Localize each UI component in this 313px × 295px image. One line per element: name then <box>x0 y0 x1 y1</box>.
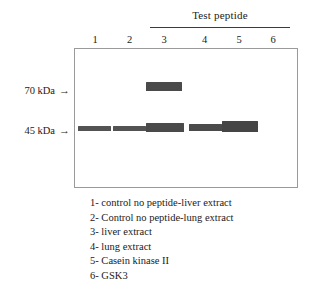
test-peptide-group-label: Test peptide <box>150 9 290 22</box>
marker-label-70kda: 70 kDa→ <box>0 84 70 97</box>
lane-number-3: 3 <box>155 33 173 46</box>
arrow-right-icon-70kda: → <box>59 84 70 96</box>
lane-number-5: 5 <box>230 33 248 46</box>
legend-item-6: 6- GSK3 <box>90 269 305 284</box>
legend-item-1: 1- control no peptide-liver extract <box>90 196 305 211</box>
band-lane4-45kda <box>189 124 222 131</box>
lane-number-row: 123456 <box>74 33 298 47</box>
legend-item-2: 2- Control no peptide-lung extract <box>90 211 305 226</box>
band-lane1-45kda <box>78 126 111 132</box>
legend-item-4: 4- lung extract <box>90 240 305 255</box>
legend-list: 1- control no peptide-liver extract2- Co… <box>90 196 305 284</box>
marker-45kda-text: 45 kDa <box>24 125 55 136</box>
lane-number-1: 1 <box>86 33 104 46</box>
band-lane5-45kda <box>222 121 258 132</box>
legend-item-3: 3- liver extract <box>90 225 305 240</box>
arrow-right-icon-45kda: → <box>59 124 70 136</box>
band-lane3-45kda <box>146 123 184 132</box>
band-lane2-45kda <box>113 126 146 131</box>
band-lane3-70kda <box>146 82 182 91</box>
lane-number-6: 6 <box>264 33 282 46</box>
lane-number-4: 4 <box>196 33 214 46</box>
test-peptide-group-underline <box>150 27 290 28</box>
gel-box <box>74 48 298 188</box>
legend-item-5: 5- Casein kinase II <box>90 254 305 269</box>
marker-label-45kda: 45 kDa→ <box>0 124 70 137</box>
lane-number-2: 2 <box>121 33 139 46</box>
western-blot-figure: Test peptide 123456 70 kDa→ 45 kDa→ 1- c… <box>0 0 313 295</box>
marker-70kda-text: 70 kDa <box>24 85 55 96</box>
